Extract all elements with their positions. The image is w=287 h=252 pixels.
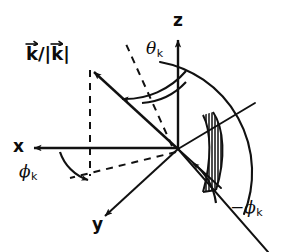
k-slash: / — [38, 43, 45, 64]
label-z-axis: z — [173, 12, 183, 29]
k-denominator-with-arrow: k — [51, 44, 63, 63]
k-numerator-with-arrow: k — [26, 44, 38, 63]
theta-arc-outer — [122, 71, 186, 99]
y-axis — [105, 149, 178, 216]
theta-angle-arcs — [122, 71, 186, 103]
label-minus-phi-k: −ϕk — [230, 199, 263, 218]
minus-sign: − — [230, 197, 244, 217]
label-x-axis: x — [13, 138, 24, 155]
theta-subscript: k — [157, 47, 163, 60]
label-phi-k: ϕk — [19, 163, 37, 182]
phi-angle-arc — [60, 152, 88, 180]
construction-lines — [70, 44, 176, 178]
k-denominator: k — [51, 43, 63, 64]
figure-root: k /| k | z x y θk ϕk −ϕk — [0, 0, 287, 252]
minus-phi-symbol: ϕ — [244, 197, 256, 217]
label-theta-k: θk — [146, 40, 163, 59]
label-k-unit-vector: k /| k | — [26, 44, 70, 63]
minus-phi-subscript: k — [256, 206, 262, 219]
k-numerator: k — [26, 43, 38, 64]
label-y-axis: y — [92, 216, 103, 233]
fan-radius-lines — [178, 103, 268, 252]
k-unit-vector-arrow — [94, 72, 178, 149]
fan-radius-upper — [178, 103, 255, 149]
theta-symbol: θ — [146, 38, 156, 58]
phi-symbol: ϕ — [19, 161, 31, 181]
k-bar-open: | — [45, 43, 52, 64]
phi-subscript: k — [31, 170, 37, 183]
k-bar-close: | — [63, 43, 70, 64]
